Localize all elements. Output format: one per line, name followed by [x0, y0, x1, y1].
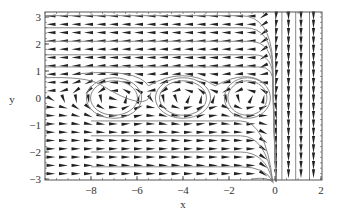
y-tick-label: −2 — [29, 146, 41, 158]
x-axis-label: x — [180, 198, 186, 210]
x-tick-label: −2 — [223, 184, 235, 196]
y-axis-label: y — [9, 93, 15, 105]
x-tick-label: 2 — [318, 184, 324, 196]
x-tick-label: 0 — [272, 184, 278, 196]
y-tick-label: −1 — [29, 119, 41, 131]
y-tick-label: 1 — [36, 65, 42, 77]
y-tick-label: −3 — [29, 173, 41, 185]
x-tick-label: −4 — [177, 184, 189, 196]
vector-field-chart: −8−6−4−202 −3−2−10123 x y — [0, 0, 339, 214]
y-tick-label: 2 — [36, 38, 42, 50]
x-tick-label: −6 — [131, 184, 143, 196]
y-tick-label: 3 — [36, 11, 42, 23]
y-tick-label: 0 — [36, 92, 42, 104]
x-tick-label: −8 — [85, 184, 97, 196]
